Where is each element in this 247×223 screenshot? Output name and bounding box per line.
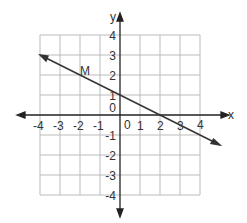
svg-text:0: 0 <box>124 118 131 132</box>
svg-text:-1: -1 <box>93 119 104 133</box>
svg-text:-1: -1 <box>105 129 116 143</box>
svg-text:0: 0 <box>109 101 116 115</box>
x-axis-label: x <box>228 108 234 122</box>
svg-text:1: 1 <box>137 119 144 133</box>
svg-text:-2: -2 <box>105 149 116 163</box>
point-label-m: M <box>80 64 90 78</box>
svg-text:4: 4 <box>197 118 204 132</box>
svg-text:4: 4 <box>109 29 116 43</box>
svg-text:-4: -4 <box>105 189 116 203</box>
svg-text:-3: -3 <box>105 169 116 183</box>
y-axis-label: y <box>110 10 116 24</box>
svg-text:2: 2 <box>157 119 164 133</box>
svg-text:-2: -2 <box>73 119 84 133</box>
svg-text:2: 2 <box>109 69 116 83</box>
svg-text:-4: -4 <box>33 119 44 133</box>
svg-text:-3: -3 <box>53 119 64 133</box>
x-tick-labels: -4 -3 -2 -1 0 1 2 3 4 <box>33 118 204 133</box>
coordinate-plane: x y -4 -3 -2 -1 0 1 2 3 4 4 3 2 1 0 -1 -… <box>0 0 247 223</box>
svg-text:3: 3 <box>109 49 116 63</box>
axes <box>17 13 229 217</box>
